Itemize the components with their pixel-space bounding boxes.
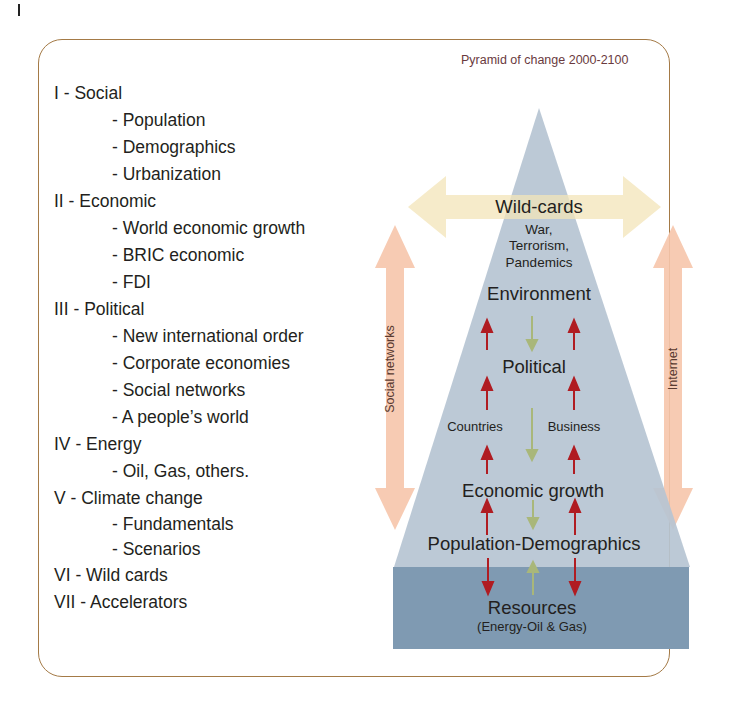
social-networks-label: Social networks [383,325,397,413]
wildcards-war: War, [525,222,552,237]
label-business: Business [548,419,601,434]
level-political: Political [502,356,566,378]
level-population-demographics: Population-Demographics [428,533,641,555]
level-resources-sub: (Energy-Oil & Gas) [477,619,587,634]
label-countries: Countries [447,419,503,434]
internet-label: Internet [666,348,680,390]
level-economic-growth: Economic growth [462,480,604,502]
pyramid-diagram [0,0,740,708]
level-environment: Environment [487,283,591,305]
wildcards-pandemics: Pandemics [506,255,573,270]
wildcards-label: Wild-cards [495,196,582,218]
level-resources: Resources [488,597,576,619]
wildcards-terrorism: Terrorism, [509,238,569,253]
